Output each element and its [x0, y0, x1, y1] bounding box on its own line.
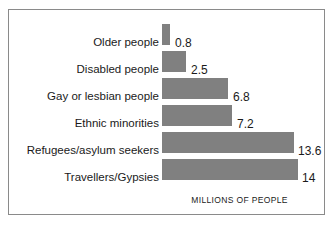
bar [162, 159, 298, 180]
bar [162, 24, 170, 45]
value-label: 7.2 [237, 118, 254, 130]
bar-track: 0.8 [162, 23, 324, 50]
category-label: Disabled people [9, 64, 159, 76]
bar-row: Refugees/asylum seekers 13.6 [9, 131, 324, 158]
bar [162, 78, 228, 99]
category-label: Older people [9, 37, 159, 49]
category-label: Travellers/Gypsies [9, 172, 159, 184]
bar-track: 7.2 [162, 104, 324, 131]
category-label: Refugees/asylum seekers [9, 145, 159, 157]
bar-chart-plot-area: Older people 0.8 Disabled people 2.5 Gay… [9, 10, 324, 214]
bar [162, 51, 186, 72]
bar-track: 14 [162, 158, 324, 185]
value-label: 0.8 [175, 37, 192, 49]
bar-row: Travellers/Gypsies 14 [9, 158, 324, 185]
bar-row: Ethnic minorities 7.2 [9, 104, 324, 131]
category-label: Ethnic minorities [9, 118, 159, 130]
category-label: Gay or lesbian people [9, 91, 159, 103]
value-label: 14 [302, 172, 315, 184]
bar [162, 105, 232, 126]
bar-row: Older people 0.8 [9, 23, 324, 50]
value-label: 13.6 [298, 145, 321, 157]
bar-track: 2.5 [162, 50, 324, 77]
bar-row: Gay or lesbian people 6.8 [9, 77, 324, 104]
value-label: 2.5 [191, 64, 208, 76]
bar-track: 13.6 [162, 131, 324, 158]
chart-frame: Older people 0.8 Disabled people 2.5 Gay… [8, 9, 325, 215]
value-label: 6.8 [233, 91, 250, 103]
bar [162, 132, 294, 153]
bar-row: Disabled people 2.5 [9, 50, 324, 77]
x-axis-label: MILLIONS OF PEOPLE [162, 195, 317, 205]
bar-track: 6.8 [162, 77, 324, 104]
